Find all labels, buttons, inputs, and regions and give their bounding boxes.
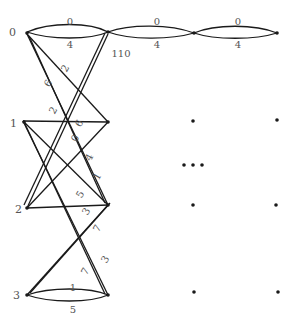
edge-bottom-bottom	[27, 295, 108, 301]
node-labels: 0 1 2 3	[9, 26, 22, 302]
edge-1-m3b	[25, 124, 105, 294]
node-2	[25, 206, 29, 210]
ellipsis-dot-3	[200, 163, 204, 167]
node-label-0: 0	[9, 26, 16, 39]
edge-loop3-top	[194, 26, 277, 33]
bottom-loop-top-label: 1	[70, 282, 76, 293]
edge-1-m2	[23, 121, 108, 205]
node-r2-0	[275, 31, 279, 35]
ellipsis-dot-1	[182, 163, 186, 167]
node-1	[22, 120, 26, 124]
edge-label: 4	[83, 152, 96, 163]
edge-label: 2	[59, 63, 72, 74]
edge-bottom-top	[27, 289, 108, 295]
edge-loop2-top	[108, 26, 194, 33]
bottom-loop	[27, 289, 108, 301]
loop-labels: 0 4 0 4 0 4 1 5 110	[67, 16, 241, 315]
loop2-bottom-label: 4	[154, 39, 160, 50]
node-m2	[106, 203, 110, 207]
ellipsis-dot-2	[191, 163, 195, 167]
node-r1-3	[192, 290, 196, 294]
loop1-bottom-label: 4	[67, 39, 73, 50]
loop3-top-label: 0	[235, 16, 241, 27]
edge-loop3-bottom	[194, 33, 277, 38]
edge-label: 3	[99, 254, 112, 265]
node-r1-1	[191, 119, 195, 123]
edge-loop1-bottom	[27, 32, 108, 38]
edge-loop2-bottom	[108, 32, 194, 38]
bottom-loop-bottom-label: 5	[70, 304, 76, 315]
edge-label: 1	[91, 171, 104, 182]
node-r1-2	[191, 203, 195, 207]
edge-label: 5	[74, 189, 87, 200]
edge-2-m2	[27, 205, 108, 208]
node-label-3: 3	[13, 289, 20, 302]
node-r1-0	[192, 31, 196, 35]
node-r2-2	[274, 203, 278, 207]
edge-label: 3	[80, 206, 93, 217]
edge-1-m1	[23, 121, 108, 122]
node-r2-3	[276, 290, 280, 294]
edge-label: 7	[91, 223, 104, 234]
edge-label: 2	[47, 105, 60, 116]
node-m3	[106, 293, 110, 297]
loop2-top-label: 0	[154, 16, 160, 27]
edge-label: 7	[79, 266, 92, 277]
layered-graph-diagram: 0 1 2 3 0 4 0 4 0 4 1 5 110 2 6 2 6 0 4 …	[0, 0, 297, 321]
node-m0	[106, 30, 110, 34]
node-label-2: 2	[15, 203, 22, 216]
edge-m0-2b	[24, 33, 105, 205]
node-0	[25, 31, 29, 35]
node-annotation-110: 110	[111, 48, 130, 59]
node-r2-1	[275, 118, 279, 122]
loop3-bottom-label: 4	[235, 39, 241, 50]
edge-label: 6	[73, 118, 86, 129]
node-m1	[106, 120, 110, 124]
node-3	[25, 293, 29, 297]
node-label-1: 1	[10, 117, 17, 130]
edge-2-m1	[27, 122, 108, 208]
loop1-top-label: 0	[67, 16, 73, 27]
